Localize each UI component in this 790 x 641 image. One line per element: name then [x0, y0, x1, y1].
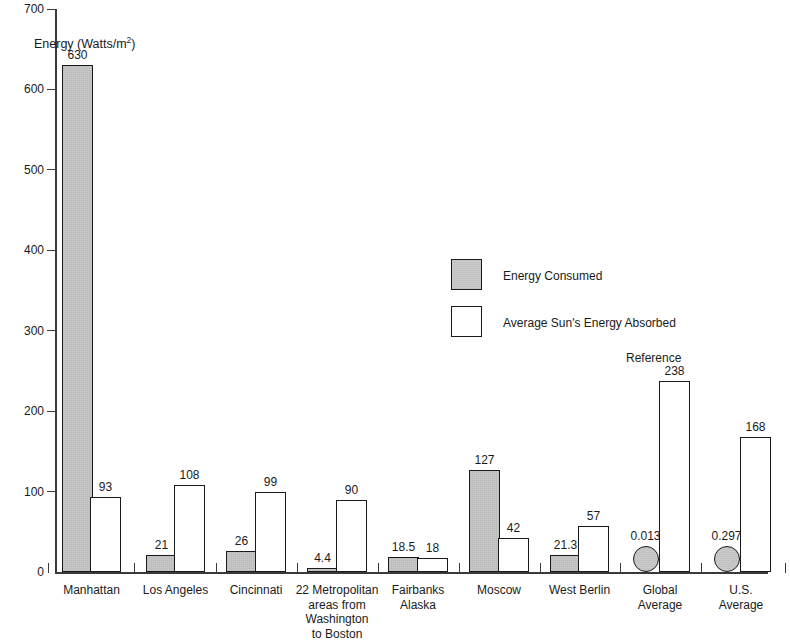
x-axis-line: [55, 572, 768, 574]
y-axis-tick: [47, 491, 57, 492]
bar-west-berlin-absorbed: [578, 526, 609, 572]
category-label-line: U.S.: [681, 583, 790, 598]
bar-manhattan-consumed: [62, 65, 93, 572]
bar-22-metropolitan-areas-from-washing-consumed: [307, 568, 338, 572]
bar-manhattan-absorbed: [90, 497, 121, 572]
x-axis-tick: [540, 563, 541, 573]
y-axis-tick-label: 0: [10, 566, 44, 578]
bar-los-angeles-absorbed: [174, 485, 205, 572]
y-axis-tick: [47, 330, 57, 331]
x-axis-tick: [701, 563, 702, 573]
y-axis-tick-label: 600: [10, 83, 44, 95]
legend-label-energy-consumed: Energy Consumed: [503, 270, 602, 282]
y-axis-tick-label-wrap: 400: [0, 244, 44, 256]
y-axis-tick-label: 100: [10, 486, 44, 498]
y-axis-tick-label-wrap: 300: [0, 325, 44, 337]
bar-value-label-moscow-consumed: 127: [453, 454, 516, 466]
y-axis-tick-label: 200: [10, 405, 44, 417]
x-axis-tick: [134, 563, 135, 573]
y-axis-tick: [47, 9, 57, 10]
y-axis-title-tail: ): [131, 37, 135, 51]
y-axis-line: [55, 9, 57, 574]
x-axis-tick: [378, 563, 379, 573]
y-axis-tick-label-wrap: 200: [0, 405, 44, 417]
x-axis-tick: [297, 563, 298, 573]
bar-value-label-west-berlin-absorbed: 57: [562, 510, 625, 522]
y-axis-tick: [47, 89, 57, 90]
y-axis-tick-label-wrap: 700: [0, 3, 44, 15]
reference-annotation: Reference: [626, 352, 681, 364]
bar-global-average-absorbed: [659, 381, 690, 572]
category-label-line: Washington: [277, 612, 397, 627]
bar-value-label-manhattan-consumed: 630: [46, 49, 109, 61]
y-axis-tick-label-wrap: 100: [0, 486, 44, 498]
y-axis-tick: [47, 411, 57, 412]
bar-cincinnati-absorbed: [255, 492, 286, 572]
category-label-line: Alaska: [358, 598, 478, 613]
bar-value-label-fairbanks-alaska-absorbed: 18: [401, 542, 464, 554]
bar-value-label-los-angeles-absorbed: 108: [158, 469, 221, 481]
circle-marker-u-s-average-consumed: [714, 546, 740, 572]
bar-cincinnati-consumed: [226, 551, 257, 572]
bar-moscow-consumed: [469, 470, 500, 572]
x-axis-tick: [785, 563, 786, 573]
bar-u-s-average-absorbed: [740, 437, 771, 572]
bar-22-metropolitan-areas-from-washing-absorbed: [336, 500, 367, 572]
bar-value-label-u-s-average-absorbed: 168: [724, 421, 787, 433]
legend-swatch-sun-energy-absorbed: [451, 306, 482, 337]
bar-value-label-22-metropolitan-areas-from-washing-absorbed: 90: [320, 484, 383, 496]
y-axis-tick: [47, 250, 57, 251]
circle-marker-global-average-consumed: [633, 546, 659, 572]
x-axis-tick: [216, 563, 217, 573]
y-axis-tick-label: 400: [10, 244, 44, 256]
y-axis-tick-label: 500: [10, 164, 44, 176]
bar-value-label-cincinnati-absorbed: 99: [239, 476, 302, 488]
y-axis-tick-label-wrap: 0: [0, 566, 44, 578]
y-axis-tick: [47, 169, 57, 170]
bar-value-label-global-average-absorbed: 238: [643, 365, 706, 377]
y-axis-tick-label-wrap: 600: [0, 83, 44, 95]
category-label-line: to Boston: [277, 627, 397, 641]
category-label-u-s-average: U.S.Average: [681, 583, 790, 612]
legend-swatch-energy-consumed: [451, 259, 482, 290]
bar-fairbanks-alaska-absorbed: [417, 558, 448, 572]
bar-value-label-moscow-absorbed: 42: [482, 522, 545, 534]
bar-fairbanks-alaska-consumed: [388, 557, 419, 572]
bar-value-label-manhattan-absorbed: 93: [74, 481, 137, 493]
x-axis-tick: [48, 563, 49, 573]
category-label-line: Average: [681, 598, 790, 613]
bar-west-berlin-consumed: [550, 555, 581, 572]
bar-moscow-absorbed: [498, 538, 529, 572]
y-axis-tick-label: 700: [10, 3, 44, 15]
legend-label-sun-energy-absorbed: Average Sun's Energy Absorbed: [503, 317, 676, 329]
y-axis-tick-label: 300: [10, 325, 44, 337]
y-axis-tick-label-wrap: 500: [0, 164, 44, 176]
x-axis-tick: [620, 563, 621, 573]
x-axis-tick: [459, 563, 460, 573]
bar-los-angeles-consumed: [146, 555, 177, 572]
